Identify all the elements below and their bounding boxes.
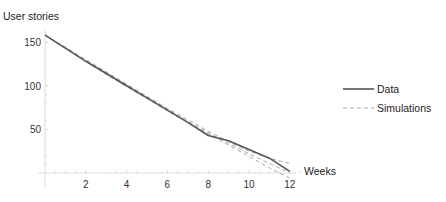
x-tick-label: 4 bbox=[124, 179, 130, 190]
legend-label-simulations: Simulations bbox=[377, 102, 431, 114]
legend-label-data: Data bbox=[377, 83, 399, 95]
y-tick-label: 100 bbox=[24, 81, 41, 92]
x-tick-label: 2 bbox=[83, 179, 89, 190]
simulation-line bbox=[45, 35, 290, 163]
chart-canvas: User stories Weeks 150 100 50 2 4 6 8 10… bbox=[0, 0, 446, 202]
x-tick-label: 10 bbox=[243, 179, 255, 190]
legend: Data Simulations bbox=[343, 83, 431, 114]
data-line bbox=[45, 35, 290, 171]
axis-minor-ticks bbox=[45, 33, 300, 173]
y-axis-title: User stories bbox=[3, 10, 59, 22]
y-tick-label: 150 bbox=[24, 37, 41, 48]
x-axis-title: Weeks bbox=[304, 165, 336, 177]
y-tick-label: 50 bbox=[30, 124, 42, 135]
burndown-chart: User stories Weeks 150 100 50 2 4 6 8 10… bbox=[0, 0, 446, 202]
x-tick-label: 6 bbox=[165, 179, 171, 190]
x-tick-label: 8 bbox=[205, 179, 211, 190]
x-tick-label: 12 bbox=[284, 179, 296, 190]
series-group bbox=[45, 35, 290, 178]
